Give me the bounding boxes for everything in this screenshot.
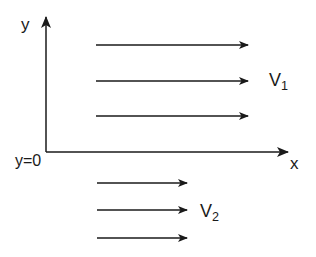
velocity-label-v2-main: V [200, 201, 212, 221]
velocity-label-v1: V1 [269, 71, 288, 89]
diagram-canvas: y x y=0 V1 V2 [0, 0, 316, 257]
upper-velocity-arrows [96, 45, 248, 116]
velocity-label-v1-main: V [269, 70, 281, 90]
velocity-label-v2-subscript: 2 [212, 210, 219, 224]
velocity-label-v1-subscript: 1 [281, 79, 288, 93]
origin-label: y=0 [15, 153, 41, 169]
velocity-label-v2: V2 [200, 202, 219, 220]
y-axis-label: y [21, 16, 30, 33]
diagram-svg [0, 0, 316, 257]
lower-velocity-arrows [97, 183, 187, 238]
x-axis-label: x [290, 155, 299, 172]
